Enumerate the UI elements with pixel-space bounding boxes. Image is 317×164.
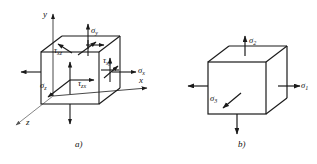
label-tau-xy: τxy — [103, 55, 112, 66]
label-sigma-y: σy — [91, 25, 98, 36]
caption-b: b) — [238, 139, 246, 149]
label-sigma-2: σ2 — [249, 35, 256, 46]
cube-a-edge-top-right — [99, 36, 120, 52]
stress-arrows-a — [21, 24, 136, 124]
cube-a-edge-right-bot — [99, 88, 120, 104]
sigma-3-arrow — [223, 93, 241, 108]
cube-b-front-face — [208, 62, 266, 114]
label-z-axis: z — [25, 117, 30, 127]
label-sigma-1: σ1 — [301, 80, 308, 91]
cube-b-edge-top-right — [266, 46, 287, 62]
label-sigma-x: σx — [138, 65, 145, 76]
label-y-axis: y — [42, 9, 47, 19]
cube-b — [208, 46, 287, 114]
panel-b — [188, 36, 300, 134]
figure-canvas: y x z σy σx σz τxz τxy τzx σ2 σ1 σ3 — [0, 0, 317, 164]
label-x-axis: x — [138, 75, 143, 85]
caption-a: a) — [75, 139, 83, 149]
x-axis-line — [53, 88, 147, 96]
z-axis-line — [16, 96, 53, 125]
label-sigma-z: σz — [40, 80, 47, 91]
panel-a — [16, 14, 147, 125]
axis-group-a — [16, 14, 147, 125]
tau-xz-diag — [78, 42, 96, 55]
stress-element-figure: y x z σy σx σz τxz τxy τzx σ2 σ1 σ3 a) b… — [0, 0, 317, 164]
cube-b-edge-right-bot — [266, 98, 287, 114]
cube-b-edge-top-left — [208, 46, 229, 62]
label-sigma-3: σ3 — [210, 93, 217, 104]
stress-arrows-b — [188, 36, 300, 134]
